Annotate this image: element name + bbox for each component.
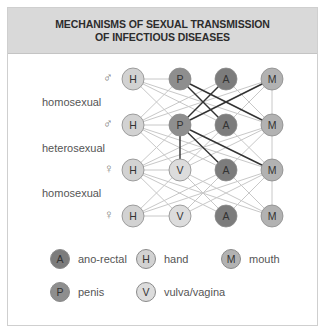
female-symbol-icon: ♀	[104, 161, 114, 176]
node-a: A	[215, 205, 237, 227]
legend-label: vulva/vagina	[164, 286, 225, 298]
node-a: A	[215, 114, 237, 136]
svg-text:P: P	[176, 73, 183, 85]
legend-node-p: P	[50, 282, 70, 302]
legend-node-m: M	[221, 249, 241, 269]
svg-text:H: H	[129, 73, 137, 85]
node-h: H	[122, 114, 144, 136]
legend-item-mouth: M mouth	[221, 249, 280, 269]
node-m: M	[261, 205, 283, 227]
svg-text:H: H	[129, 164, 137, 176]
svg-text:V: V	[176, 164, 183, 176]
node-a: A	[215, 68, 237, 90]
node-p: P	[169, 68, 191, 90]
svg-text:H: H	[129, 210, 137, 222]
node-a: A	[215, 159, 237, 181]
node-h: H	[122, 205, 144, 227]
label-homosexual-female: homosexual	[42, 187, 101, 199]
node-h: H	[122, 159, 144, 181]
svg-text:H: H	[129, 119, 137, 131]
legend-node-h: H	[136, 249, 156, 269]
legend-node-a: A	[50, 249, 70, 269]
female-symbol-icon: ♀	[104, 207, 114, 222]
svg-text:A: A	[222, 210, 229, 222]
node-m: M	[261, 114, 283, 136]
svg-text:M: M	[268, 119, 277, 131]
node-m: M	[261, 68, 283, 90]
legend-node-v: V	[136, 282, 156, 302]
male-symbol-icon: ♂	[103, 116, 113, 131]
legend-item-ano-rectal: A ano-rectal	[50, 249, 127, 269]
svg-text:V: V	[176, 210, 183, 222]
legend-item-vulva-vagina: V vulva/vagina	[136, 282, 225, 302]
node-p: P	[169, 114, 191, 136]
legend-label: mouth	[249, 253, 280, 265]
svg-text:A: A	[222, 73, 229, 85]
legend-item-hand: H hand	[136, 249, 188, 269]
label-homosexual-male: homosexual	[42, 96, 101, 108]
legend-item-penis: P penis	[50, 282, 104, 302]
label-heterosexual: heterosexual	[42, 142, 105, 154]
node-h: H	[122, 68, 144, 90]
svg-text:M: M	[268, 73, 277, 85]
svg-text:M: M	[268, 210, 277, 222]
svg-text:A: A	[222, 119, 229, 131]
node-m: M	[261, 159, 283, 181]
legend-label: hand	[164, 253, 188, 265]
legend-label: ano-rectal	[78, 253, 127, 265]
legend-label: penis	[78, 286, 104, 298]
node-v: V	[169, 159, 191, 181]
svg-text:P: P	[176, 119, 183, 131]
svg-text:A: A	[222, 164, 229, 176]
male-symbol-icon: ♂	[103, 70, 113, 85]
node-v: V	[169, 205, 191, 227]
svg-text:M: M	[268, 164, 277, 176]
